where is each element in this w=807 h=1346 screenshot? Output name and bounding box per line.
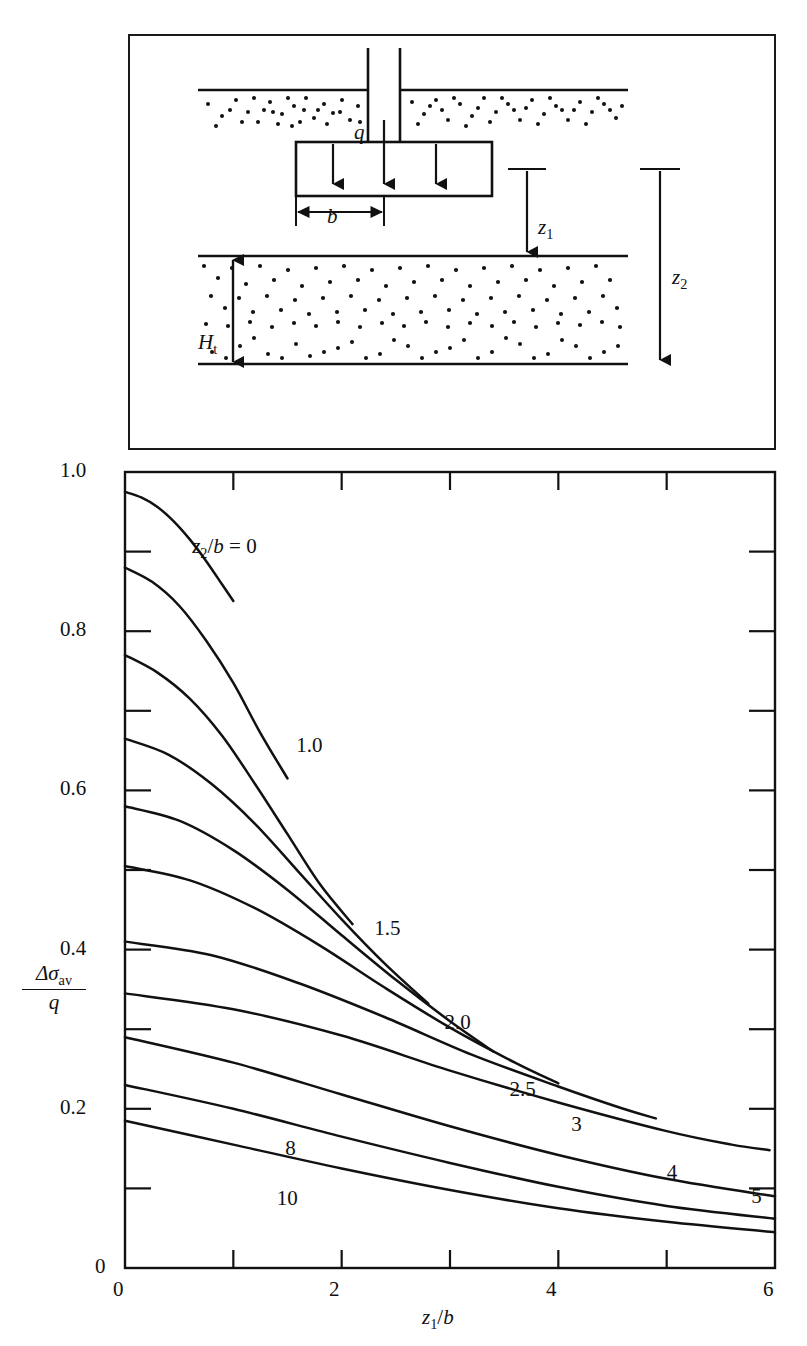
curve-label-1.0: 1.0 (296, 733, 322, 758)
curve-label-10: 10 (277, 1186, 298, 1211)
spread-footing (296, 142, 492, 196)
layer-thickness-label-Ht: Ht (198, 330, 217, 358)
curve-label-1.5: 1.5 (374, 916, 400, 941)
curve-2.0 (125, 739, 428, 1004)
plot-frame (125, 472, 775, 1268)
width-label-b: b (327, 204, 338, 229)
curve-10 (125, 1085, 775, 1219)
curve-label-5: 5 (751, 1184, 762, 1209)
footing-stress-diagram (128, 34, 776, 450)
curve-label-0: z2/b = 0 (192, 534, 257, 562)
curve-label-3: 3 (571, 1112, 582, 1137)
soil-stipple-compressible (202, 264, 622, 329)
x-tick-label-2: 2 (329, 1277, 340, 1302)
curve-2.5 (125, 806, 493, 1051)
figure-page: q b z1 z2 Ht 1.0 0.8 0.6 0.4 0.2 0 0 2 4… (0, 0, 807, 1346)
curve-label-8: 8 (285, 1136, 296, 1161)
depth-label-z1: z1 (538, 215, 553, 243)
curve-label-2.0: 2.0 (445, 1010, 471, 1035)
soil-stipple-lower (210, 336, 620, 360)
load-label-q: q (354, 120, 365, 145)
y-axis-title: Δσav q (22, 962, 86, 1013)
y-tick-label-6: 0 (95, 1254, 106, 1279)
y-tick-label-3: 0.6 (60, 776, 86, 801)
curve-label-4: 4 (667, 1160, 678, 1185)
depth-label-z2: z2 (672, 265, 687, 293)
soil-stipple-upper (206, 96, 624, 128)
x-axis-title: z1/b (422, 1305, 454, 1333)
x-tick-label-4: 6 (763, 1277, 774, 1302)
curve-1.5 (125, 655, 353, 924)
axis-ticks (125, 472, 775, 1268)
stress-chart (0, 452, 807, 1332)
curve-label-2.5: 2.5 (510, 1077, 536, 1102)
data-curves (125, 492, 775, 1232)
y-axis-denominator: q (22, 990, 86, 1013)
y-axis-numerator: Δσav (22, 962, 86, 990)
y-tick-label-1: 1.0 (60, 458, 86, 483)
y-tick-label-5: 0.2 (60, 1095, 86, 1120)
curve-extra-lowest (125, 1121, 775, 1232)
x-tick-label-1: 0 (113, 1277, 124, 1302)
curve-8 (125, 1037, 775, 1196)
x-tick-label-3: 4 (546, 1277, 557, 1302)
y-tick-label-2: 0.8 (60, 617, 86, 642)
y-tick-label-4: 0.4 (60, 936, 86, 961)
